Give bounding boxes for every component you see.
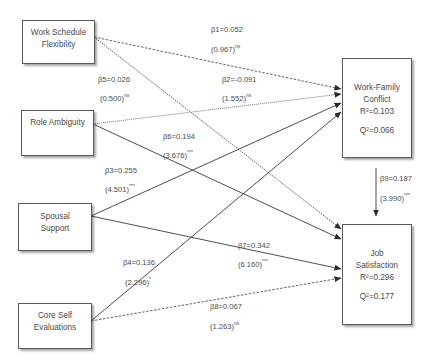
path-b4-t: (2.296)* xyxy=(125,278,151,287)
path-b6-t: (3.676)*** xyxy=(163,151,193,160)
path-b1-beta: β1=0.052 xyxy=(211,25,243,34)
node-core-self-evaluations: Core Self Evaluations xyxy=(18,303,92,349)
path-b5-t: (0.500)ns xyxy=(100,94,129,103)
node-label: Work-Family xyxy=(343,82,411,94)
r-squared: R²=0.103 xyxy=(343,106,411,118)
node-label: Spousal xyxy=(19,211,91,223)
significance: *** xyxy=(129,183,135,189)
path-b4-arrow xyxy=(91,112,341,321)
node-label: Conflict xyxy=(343,94,411,106)
path-b3-t: (4.501)*** xyxy=(105,185,135,194)
node-label: Job xyxy=(343,248,411,260)
path-b3-beta: β3=0.255 xyxy=(105,166,137,175)
t-value: (4.501) xyxy=(105,185,129,194)
node-label: Role Ambiguity xyxy=(22,117,93,129)
t-value: (3.990) xyxy=(380,194,404,203)
significance: *** xyxy=(187,149,193,155)
q-squared: Q²=0.177 xyxy=(343,291,411,303)
t-value: (3.676) xyxy=(163,151,187,160)
significance: ns xyxy=(246,92,251,98)
path-b2-beta: β2=-0.091 xyxy=(222,75,257,84)
significance: ns xyxy=(234,320,239,326)
path-b6-beta: β6=0.194 xyxy=(163,132,195,141)
significance: * xyxy=(149,276,151,282)
node-job-satisfaction: Job Satisfaction R²=0.296 Q²=0.177 xyxy=(342,224,412,325)
q-squared: Q²=0.066 xyxy=(343,125,411,137)
node-label: Core Self xyxy=(19,310,91,322)
t-value: (1.263) xyxy=(210,322,234,331)
path-b7-beta: β7=0.342 xyxy=(238,241,270,250)
path-b9-t: (3.990)*** xyxy=(380,194,410,203)
path-b6-arrow xyxy=(93,124,341,239)
path-b7-t: (6.160)*** xyxy=(238,260,268,269)
path-b8-t: (1.263)ns xyxy=(210,322,239,331)
t-value: (1.552) xyxy=(222,94,246,103)
node-role-ambiguity: Role Ambiguity xyxy=(21,110,94,156)
path-b2-t: (1.552)ns xyxy=(222,94,251,103)
significance: *** xyxy=(262,258,268,264)
node-label: Flexibility xyxy=(23,39,94,51)
r-squared: R²=0.296 xyxy=(343,272,411,284)
path-b1-t: (0.967)ns xyxy=(211,45,240,54)
significance: ns xyxy=(124,92,129,98)
significance: ns xyxy=(235,43,240,49)
node-label: Evaluations xyxy=(19,322,91,334)
t-value: (2.296) xyxy=(125,278,149,287)
node-label: Work Schedule xyxy=(23,27,94,39)
significance: *** xyxy=(404,192,410,198)
node-work-schedule-flexibility: Work Schedule Flexibility xyxy=(22,20,95,64)
node-work-family-conflict: Work-Family Conflict R²=0.103 Q²=0.066 xyxy=(342,58,412,158)
node-spousal-support: Spousal Support xyxy=(18,203,92,251)
path-b3-arrow xyxy=(91,103,341,216)
t-value: (0.967) xyxy=(211,45,235,54)
path-b8-beta: β8=0.067 xyxy=(210,302,242,311)
node-label: Satisfaction xyxy=(343,260,411,272)
path-b5-arrow xyxy=(94,37,341,229)
node-label: Support xyxy=(19,223,91,235)
path-b9-beta: β9=0.187 xyxy=(380,174,412,183)
path-b5-beta: β5=0.026 xyxy=(98,75,130,84)
t-value: (0.500) xyxy=(100,94,124,103)
path-b4-beta: β4=0.136 xyxy=(123,258,155,267)
t-value: (6.160) xyxy=(238,260,262,269)
